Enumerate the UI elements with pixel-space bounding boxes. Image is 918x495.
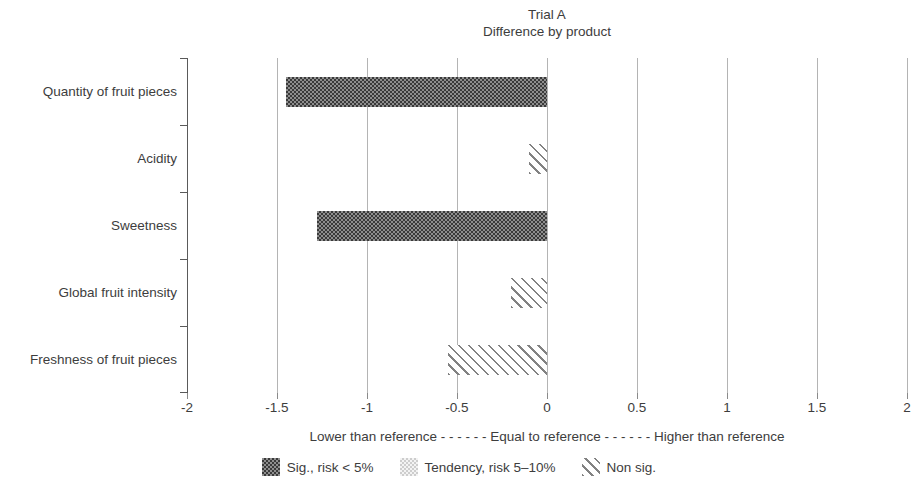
y-axis-tick	[180, 392, 187, 393]
x-axis-tick	[277, 393, 278, 399]
x-tick-label: -0.5	[427, 400, 487, 415]
y-axis-tick	[180, 326, 187, 327]
x-tick-label: 1	[697, 400, 757, 415]
y-axis-tick	[180, 192, 187, 193]
legend-swatch-sig-icon	[262, 458, 280, 476]
x-axis-tick	[907, 393, 908, 399]
y-axis-labels: Quantity of fruit piecesAciditySweetness…	[0, 58, 177, 393]
y-axis-label: Global fruit intensity	[0, 284, 177, 302]
chart-title-block: Trial A Difference by product	[187, 6, 907, 40]
x-axis-tick	[637, 393, 638, 399]
x-tick-label: 1.5	[787, 400, 847, 415]
bar-1	[529, 144, 547, 174]
x-axis-tick	[367, 393, 368, 399]
x-tick-label: 2	[877, 400, 918, 415]
plot-area	[187, 58, 907, 393]
bar-2	[317, 211, 547, 241]
chart-figure: Trial A Difference by product Quantity o…	[0, 0, 918, 495]
y-axis-label: Quantity of fruit pieces	[0, 83, 177, 101]
x-axis-tick-labels: -2-1.5-1-0.500.511.52	[0, 400, 918, 416]
legend-swatch-nonsig-icon	[582, 458, 600, 476]
legend-label: Non sig.	[607, 460, 657, 475]
y-axis-label: Freshness of fruit pieces	[0, 351, 177, 369]
legend-item-nonsig: Non sig.	[582, 458, 657, 476]
y-axis-tick	[180, 58, 187, 59]
y-axis-label: Acidity	[0, 150, 177, 168]
x-tick-label: 0	[517, 400, 577, 415]
y-axis-label: Sweetness	[0, 217, 177, 235]
legend-item-tendency: Tendency, risk 5–10%	[400, 458, 556, 476]
legend: Sig., risk < 5%Tendency, risk 5–10%Non s…	[0, 456, 918, 478]
y-axis-tick	[180, 259, 187, 260]
gridline	[277, 58, 278, 393]
chart-subtitle: Difference by product	[187, 23, 907, 40]
y-axis-tick	[180, 125, 187, 126]
x-axis-tick	[547, 393, 548, 399]
x-axis-tick	[457, 393, 458, 399]
x-tick-label: -1.5	[247, 400, 307, 415]
x-tick-label: -2	[157, 400, 217, 415]
x-axis-tick	[187, 393, 188, 399]
legend-label: Sig., risk < 5%	[287, 460, 374, 475]
axis-annotation: Lower than reference - - - - - - Equal t…	[187, 429, 907, 444]
bar-3	[511, 278, 547, 308]
x-tick-label: -1	[337, 400, 397, 415]
gridline	[637, 58, 638, 393]
x-axis-tick	[727, 393, 728, 399]
legend-item-sig: Sig., risk < 5%	[262, 458, 374, 476]
x-axis-tick	[817, 393, 818, 399]
bar-0	[286, 77, 547, 107]
x-tick-label: 0.5	[607, 400, 667, 415]
gridline	[817, 58, 818, 393]
legend-label: Tendency, risk 5–10%	[425, 460, 556, 475]
gridline	[907, 58, 908, 393]
chart-title: Trial A	[187, 6, 907, 23]
y-axis-line	[187, 58, 188, 393]
gridline	[727, 58, 728, 393]
legend-swatch-tendency-icon	[400, 458, 418, 476]
bar-4	[448, 345, 547, 375]
